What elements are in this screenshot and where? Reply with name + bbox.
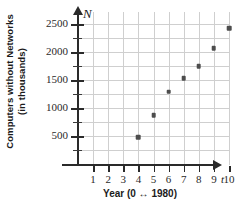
data-point [197,64,202,69]
x-axis-tick-label: 9 [206,173,222,185]
x-axis-tick-label: 6 [161,173,177,185]
x-axis-tick-label: 8 [191,173,207,185]
x-axis-tick [184,166,186,172]
gridline-horizontal [78,52,229,53]
gridline-horizontal [78,66,229,67]
data-point [136,135,141,140]
data-point [181,76,186,81]
y-axis-variable-label: N [83,6,92,22]
gridline-vertical [108,12,109,165]
gridline-horizontal [78,150,229,151]
y-axis-title-line-1: Computers without Networks [4,14,15,149]
y-axis-tick-label: 2000 [22,45,68,57]
plot-area [78,12,229,165]
y-axis-minor-tick [73,122,82,123]
y-axis-tick-label: 1500 [22,73,68,85]
gridline-horizontal [78,122,229,123]
y-axis-minor-tick [73,66,82,67]
y-axis-tick [71,52,84,54]
x-axis-tick [199,166,201,172]
data-point [151,113,156,118]
y-axis-arrowhead [73,6,83,15]
gridline-vertical [123,12,124,165]
gridline-vertical [93,12,94,165]
x-axis-tick [214,166,216,172]
x-axis-title: Year (0 ↔ 1980) [60,188,220,199]
x-axis-tick-label: 5 [146,173,162,185]
gridline-vertical [138,12,139,165]
gridline-vertical [229,12,230,165]
x-axis-tick-label: 10 [221,173,237,185]
x-axis-tick [229,166,231,172]
gridline-horizontal [78,80,229,81]
y-axis-minor-tick [73,38,82,39]
x-axis-tick [138,166,140,172]
y-axis-tick [71,136,84,138]
x-axis-tick [169,166,171,172]
y-axis-tick-label: 2500 [22,17,68,29]
data-point [212,46,217,51]
gridline-horizontal [78,38,229,39]
y-axis-minor-tick [73,150,82,151]
gridline-vertical [199,12,200,165]
x-axis-tick [154,166,156,172]
x-axis-tick [93,166,95,172]
gridline-horizontal [78,94,229,95]
y-axis-tick-label: 1000 [22,101,68,113]
y-axis-tick [71,24,84,26]
x-axis-tick-label: 7 [176,173,192,185]
x-axis-tick-label: 1 [85,173,101,185]
gridline-vertical [184,12,185,165]
y-axis-minor-tick [73,94,82,95]
gridline-vertical [154,12,155,165]
gridline-horizontal [78,136,229,137]
x-axis-tick-label: 3 [115,173,131,185]
x-axis-tick [123,166,125,172]
y-axis-tick-label: 500 [22,129,68,141]
y-axis-tick [71,108,84,110]
gridline-vertical [214,12,215,165]
gridline-horizontal [78,108,229,109]
x-axis-tick-label: 2 [100,173,116,185]
x-axis-tick [108,166,110,172]
y-axis-tick [71,80,84,82]
gridline-horizontal [78,24,229,25]
data-point [227,26,232,31]
data-point [166,89,171,94]
scatter-plot-figure: Computers without Networks (in thousands… [0,0,237,206]
x-axis-tick-label: 4 [130,173,146,185]
y-axis-line [77,14,79,166]
